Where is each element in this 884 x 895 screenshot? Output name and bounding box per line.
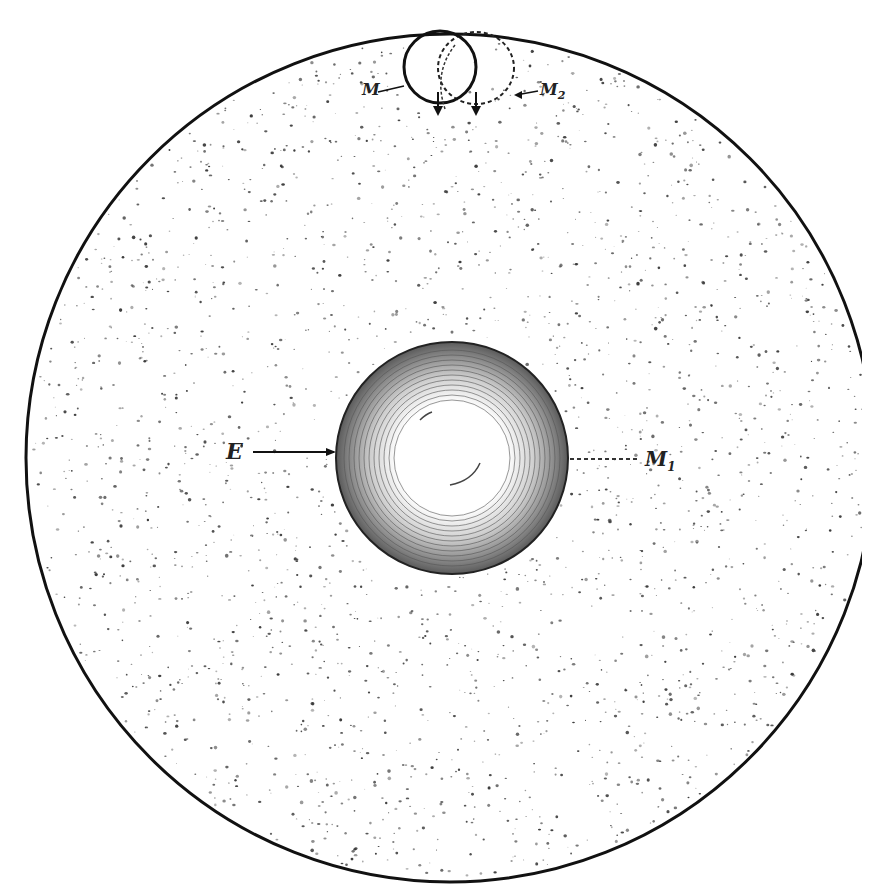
- diagram-canvas: [0, 0, 884, 895]
- label-moon-1-main: M: [645, 447, 667, 471]
- label-moon-1-sub: 1: [667, 460, 675, 474]
- earth: [336, 342, 568, 574]
- label-moon-2-sub: 2: [558, 89, 566, 102]
- moon-positions: [404, 31, 514, 116]
- label-moon-1: M1: [645, 447, 676, 474]
- label-earth: E: [226, 438, 243, 464]
- page-edge: [862, 0, 884, 895]
- label-moon-2: M2: [540, 80, 565, 102]
- moon-m-solid: [404, 31, 476, 103]
- label-moon-2-main: M: [540, 80, 558, 99]
- diagram: E M M1 M2: [0, 0, 884, 895]
- label-moon: M: [362, 80, 380, 99]
